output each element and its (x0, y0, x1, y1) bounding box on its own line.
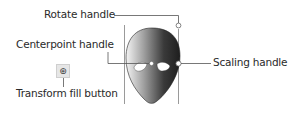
alien-face (126, 28, 180, 103)
centerpoint-handle[interactable] (149, 61, 153, 65)
rotate-handle[interactable] (176, 23, 181, 28)
transform-fill-button[interactable]: ⊛ (56, 64, 70, 78)
rotate-handle-label: Rotate handle (44, 8, 115, 20)
scaling-handle[interactable] (176, 61, 181, 66)
scaling-handle-label: Scaling handle (213, 56, 287, 68)
transform-fill-button-label: Transform fill button (16, 87, 118, 99)
transform-fill-icon: ⊛ (59, 66, 67, 76)
centerpoint-handle-label: Centerpoint handle (16, 38, 114, 50)
